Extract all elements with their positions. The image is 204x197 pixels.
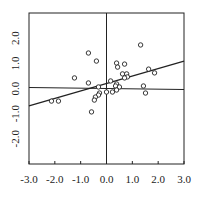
data-point [141,84,145,88]
data-point [152,71,156,75]
x-tick-label: -3.0 [20,173,38,185]
x-tick-label: 0.0 [100,173,114,185]
data-point [56,99,60,103]
data-point [143,91,147,95]
data-point [92,98,96,102]
y-tick-label: 1.0 [9,56,21,70]
x-tick-label: 2.0 [151,173,165,185]
y-tick-label: -1.0 [9,104,21,122]
reference-lines [29,13,184,164]
data-point [114,88,118,92]
y-axis: 2.01.00.0-1.0-2.0 [9,31,21,148]
data-point [94,59,98,63]
data-point [86,51,90,55]
data-point [115,65,119,69]
x-tick-label: 3.0 [177,173,191,185]
x-tick-label: -1.0 [72,173,90,185]
data-point [86,81,90,85]
data-point [122,76,126,80]
data-point [122,62,126,66]
y-tick-label: 0.0 [9,81,21,95]
scatter-plot: -3.0-2.0-1.00.01.02.03.0 2.01.00.0-1.0-2… [0,0,204,197]
y-tick-label: -2.0 [9,130,21,148]
data-points [49,43,156,114]
data-point [72,76,76,80]
data-point [49,99,53,103]
x-tick-label: -2.0 [46,173,64,185]
data-point [104,90,108,94]
data-point [138,43,142,47]
x-tick-label: 1.0 [125,173,139,185]
data-point [89,110,93,114]
data-point [96,85,100,89]
x-axis: -3.0-2.0-1.00.01.02.03.0 [20,161,191,185]
y-tick-label: 2.0 [9,31,21,45]
data-point [108,79,112,83]
data-point [146,67,150,71]
